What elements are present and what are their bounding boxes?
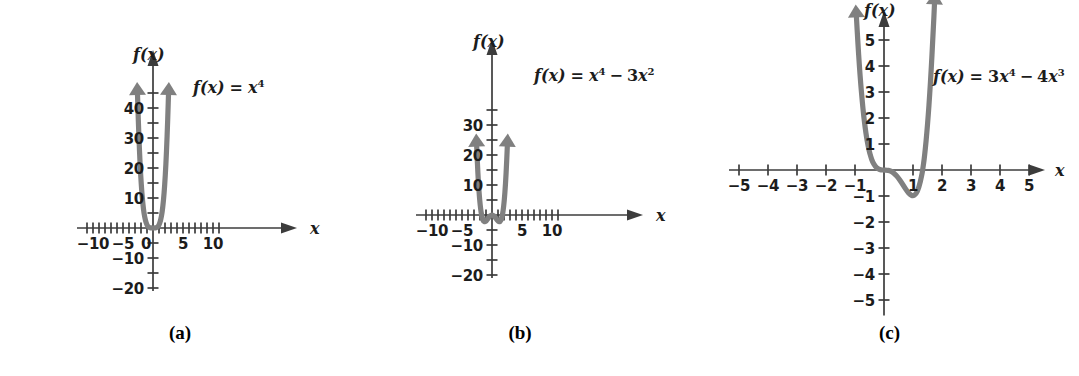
graph-b-xtick--10: −10: [416, 222, 449, 240]
graph-c-equation-label: f(x)=3x4−4x3: [932, 67, 1065, 86]
graph-c-xtick-2: 2: [937, 177, 947, 195]
graph-c-ytick--1: −1: [853, 188, 875, 206]
graph-c-ytick-5: 5: [865, 32, 875, 50]
polynomial-graphs-figure: −10−5051040302010−10−20 x f(x) f(x)=x4 (…: [0, 0, 1079, 376]
graph-a-x-axis-label: x: [309, 219, 320, 238]
graph-c-ytick--5: −5: [853, 292, 875, 310]
graph-a-ytick-30: 30: [124, 130, 144, 148]
graph-c-xtick-4: 4: [995, 177, 1005, 195]
graph-c-xtick-5: 5: [1024, 177, 1034, 195]
graph-a-xtick-10: 10: [203, 235, 223, 253]
graph-a-svg: −10−5051040302010−10−20 x f(x) f(x)=x4: [0, 0, 360, 376]
graph-c-x-axis-label: x: [1054, 161, 1065, 180]
graph-b-ytick-30: 30: [463, 117, 483, 135]
graph-c-xtick--3: −3: [786, 177, 808, 195]
panel-a-caption: (a): [169, 322, 191, 343]
graph-c-svg: −5−4−3−2−11234554321−1−2−3−4−5 x f(x) f(…: [700, 0, 1079, 376]
panel-c-caption: (c): [879, 322, 900, 343]
graph-c-xtick--2: −2: [815, 177, 837, 195]
graph-a-ytick--20: −20: [111, 280, 144, 298]
graph-c-y-axis-label: f(x): [863, 1, 896, 20]
graph-panel-b: −10−5510302010−10−20 x f(x) f(x)=x4−3x2 …: [340, 0, 700, 376]
graph-c-xtick-1: 1: [908, 177, 918, 195]
graph-b-ytick-10: 10: [463, 177, 483, 195]
graph-a-ytick-10: 10: [124, 190, 144, 208]
graph-c-curve: [848, 0, 943, 196]
graph-c-ytick-1: 1: [865, 136, 875, 154]
graph-a-xtick--10: −10: [77, 235, 110, 253]
graph-c-xtick-3: 3: [966, 177, 976, 195]
graph-b-svg: −10−5510302010−10−20 x f(x) f(x)=x4−3x2: [340, 0, 700, 376]
graph-b-ytick-20: 20: [463, 147, 483, 165]
graph-panel-c: −5−4−3−2−11234554321−1−2−3−4−5 x f(x) f(…: [700, 0, 1079, 376]
graph-b-xtick-5: 5: [517, 222, 527, 240]
graph-c-ytick-2: 2: [865, 110, 875, 128]
graph-b-ytick--10: −10: [450, 237, 483, 255]
graph-b-ytick--20: −20: [450, 267, 483, 285]
graph-b-xtick-10: 10: [542, 222, 562, 240]
graph-a-equation-label: f(x)=x4: [192, 78, 265, 97]
graph-b-y-axis-label: f(x): [472, 32, 505, 51]
graph-b-equation-label: f(x)=x4−3x2: [533, 66, 655, 85]
graph-panel-a: −10−5051040302010−10−20 x f(x) f(x)=x4 (…: [0, 0, 360, 376]
graph-c-axes: [729, 11, 1045, 316]
graph-c-ytick--2: −2: [853, 214, 875, 232]
graph-c-ytick--4: −4: [853, 266, 875, 284]
graph-a-y-axis-label: f(x): [132, 45, 165, 64]
panel-b-caption: (b): [508, 322, 531, 343]
graph-b-x-axis-label: x: [655, 206, 666, 225]
graph-a-ytick-20: 20: [124, 160, 144, 178]
graph-a-xtick-5: 5: [178, 235, 188, 253]
graph-c-ytick-3: 3: [865, 84, 875, 102]
graph-a-ytick--10: −10: [111, 250, 144, 268]
graph-a-ytick-40: 40: [124, 100, 144, 118]
graph-c-xtick--4: −4: [757, 177, 779, 195]
graph-c-ytick--3: −3: [853, 240, 875, 258]
graph-c-ytick-4: 4: [865, 58, 875, 76]
graph-c-xtick--5: −5: [728, 177, 750, 195]
